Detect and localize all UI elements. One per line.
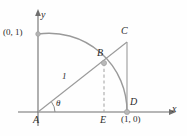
diagram-canvas xyxy=(0,0,187,136)
point-label-d: D xyxy=(130,97,137,107)
angle-label-theta: θ xyxy=(56,99,60,108)
trig-diagram-figure: y x (0, 1) A B C D E (1, 0) θ 1 xyxy=(0,0,187,136)
point-label-b: B xyxy=(97,48,103,58)
y-axis xyxy=(35,9,41,126)
x-axis xyxy=(18,109,176,115)
point-label-a: A xyxy=(33,115,39,125)
point-label-one-zero: (1, 0) xyxy=(121,115,141,124)
unit-circle-arc xyxy=(38,33,127,112)
y-axis-label: y xyxy=(41,10,45,20)
x-axis-label: x xyxy=(172,104,176,114)
segment-ac-ray xyxy=(38,42,127,112)
point-marker-zero-one xyxy=(36,32,41,37)
point-label-c: C xyxy=(121,26,128,36)
point-label-zero-one: (0, 1) xyxy=(3,28,23,37)
point-marker-b xyxy=(101,60,106,65)
segment-length-label-one: 1 xyxy=(62,72,67,81)
point-label-e: E xyxy=(100,115,106,125)
angle-theta-arc xyxy=(52,102,55,112)
